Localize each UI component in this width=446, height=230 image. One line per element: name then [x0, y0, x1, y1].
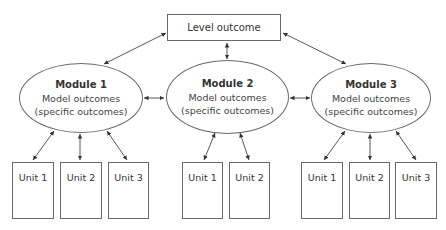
- unit-label: Unit 2: [355, 172, 383, 183]
- unit-label: Unit 2: [235, 172, 263, 183]
- level-outcome-box: Level outcome: [167, 14, 281, 41]
- module-3-unit-3: Unit 3: [395, 162, 437, 219]
- module-1-unit-2: Unit 2: [60, 162, 102, 219]
- level-outcome-label: Level outcome: [187, 22, 260, 33]
- module-3-unit-2: Unit 2: [349, 162, 390, 219]
- module-2-specific: (specific outcomes): [181, 104, 274, 117]
- module-2-ellipse: Module 2 Model outcomes (specific outcom…: [166, 60, 289, 134]
- module-3-specific: (specific outcomes): [325, 105, 418, 118]
- module-1-outcomes: Model outcomes: [42, 92, 120, 105]
- module-3-outcomes: Model outcomes: [332, 92, 410, 105]
- module-2-unit-1: Unit 1: [182, 162, 223, 219]
- module-1-unit-3: Unit 3: [108, 162, 149, 219]
- unit-label: Unit 1: [188, 172, 216, 183]
- unit-label: Unit 2: [67, 172, 95, 183]
- module-1-specific: (specific outcomes): [35, 105, 128, 118]
- unit-label: Unit 1: [308, 172, 336, 183]
- module-3-title: Module 3: [345, 78, 397, 92]
- module-3-ellipse: Module 3 Model outcomes (specific outcom…: [311, 63, 431, 133]
- module-1-title: Module 1: [55, 78, 107, 92]
- module-2-outcomes: Model outcomes: [188, 91, 266, 104]
- module-1-ellipse: Module 1 Model outcomes (specific outcom…: [19, 63, 143, 133]
- module-1-unit-1: Unit 1: [12, 162, 54, 219]
- module-2-title: Module 2: [202, 77, 254, 91]
- module-2-unit-2: Unit 2: [229, 162, 270, 219]
- unit-label: Unit 3: [114, 172, 142, 183]
- module-3-unit-1: Unit 1: [301, 162, 343, 219]
- unit-label: Unit 3: [402, 172, 430, 183]
- unit-label: Unit 1: [19, 172, 47, 183]
